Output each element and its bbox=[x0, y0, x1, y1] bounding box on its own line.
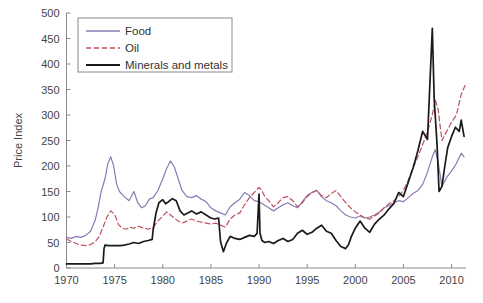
x-tick-label: 1970 bbox=[54, 274, 78, 286]
series-line-oil bbox=[67, 85, 466, 245]
x-tick-label: 2000 bbox=[343, 274, 367, 286]
x-tick-label: 1990 bbox=[247, 274, 271, 286]
price-index-chart-figure: 050100150200250300350400450500 197019751… bbox=[0, 0, 483, 303]
x-tick-label: 1985 bbox=[199, 274, 223, 286]
y-tick-label: 50 bbox=[47, 237, 59, 249]
y-tick-label: 450 bbox=[41, 33, 59, 45]
x-tick-label: 1980 bbox=[151, 274, 175, 286]
x-tick-label: 1995 bbox=[295, 274, 319, 286]
y-tick-label: 500 bbox=[41, 7, 59, 19]
legend-label-food: Food bbox=[125, 25, 151, 37]
y-tick-label: 250 bbox=[41, 135, 59, 147]
x-axis-ticks: 197019751980198519901995200020052010 bbox=[54, 264, 464, 286]
x-tick-label: 2010 bbox=[439, 274, 463, 286]
y-tick-label: 300 bbox=[41, 109, 59, 121]
y-tick-label: 400 bbox=[41, 58, 59, 70]
legend-label-minerals-and-metals: Minerals and metals bbox=[125, 59, 228, 71]
y-tick-label: 150 bbox=[41, 186, 59, 198]
chart-legend: FoodOilMinerals and metals bbox=[78, 18, 232, 72]
legend-label-oil: Oil bbox=[125, 42, 139, 54]
chart-canvas: 050100150200250300350400450500 197019751… bbox=[0, 0, 483, 303]
x-tick-label: 2005 bbox=[391, 274, 415, 286]
y-tick-label: 100 bbox=[41, 211, 59, 223]
y-tick-label: 0 bbox=[53, 262, 59, 274]
y-axis-title: Price Index bbox=[12, 112, 24, 168]
y-tick-label: 200 bbox=[41, 160, 59, 172]
y-tick-label: 350 bbox=[41, 84, 59, 96]
x-tick-label: 1975 bbox=[102, 274, 126, 286]
